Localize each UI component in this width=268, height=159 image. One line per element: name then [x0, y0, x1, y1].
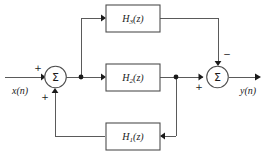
arrowhead-into-h3 — [101, 15, 106, 22]
junction-dot-after-h2 — [174, 75, 179, 80]
block-h1-label: H1(z) — [121, 131, 144, 144]
output-signal-label: y(n) — [239, 85, 257, 97]
block-h3-label: H3(z) — [121, 13, 144, 26]
arrowhead-into-right-summer-left — [199, 74, 204, 81]
input-signal-label: x(n) — [11, 85, 29, 97]
block-h3-label-tail: (z) — [133, 13, 144, 25]
block-h1-label-tail: (z) — [133, 131, 144, 143]
arrowhead-into-right-summer-top — [215, 61, 222, 66]
sign-left-summer-input-plus: + — [34, 63, 42, 73]
block-diagram-figure: H3(z) H2(z) H1(z) Σ Σ + + − + x(n) y(n) — [0, 0, 268, 159]
right-summer-sigma-glyph: Σ — [214, 71, 221, 84]
arrowhead-into-h1 — [160, 133, 165, 140]
diagram-canvas: H3(z) H2(z) H1(z) Σ Σ + + − + x(n) y(n) — [0, 0, 268, 159]
junction-dot-after-left-summer — [79, 75, 84, 80]
block-h2-label: H2(z) — [121, 72, 144, 85]
arrowhead-into-left-summer-bottom — [52, 88, 59, 93]
sign-right-summer-plus: + — [195, 82, 203, 92]
arrowhead-output — [255, 74, 261, 81]
sign-left-summer-feedback-plus: + — [41, 92, 49, 102]
block-h2-label-tail: (z) — [133, 72, 144, 84]
left-summer-sigma-glyph: Σ — [52, 71, 59, 84]
sign-right-summer-minus: − — [223, 49, 231, 59]
arrowhead-into-h2 — [101, 74, 106, 81]
